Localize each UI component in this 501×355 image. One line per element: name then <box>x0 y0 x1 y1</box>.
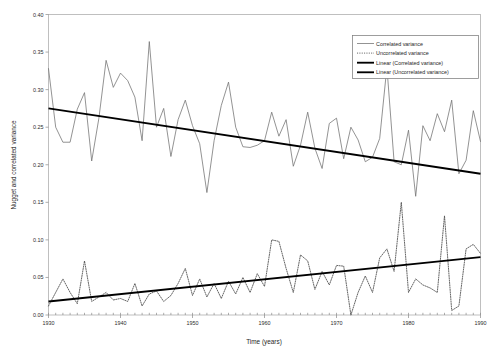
chart-legend: Correlated varianceUncorrelated variance… <box>353 36 479 79</box>
y-tick-label: 0.35 <box>33 49 44 55</box>
x-tick-label: 1990 <box>475 320 487 326</box>
x-tick-label: 1940 <box>115 320 127 326</box>
x-tick-label: 1930 <box>43 320 55 326</box>
x-tick-label: 1950 <box>187 320 199 326</box>
x-axis-title: Time (years) <box>246 338 282 346</box>
chart-canvas: 0.400.350.300.250.200.150.100.050.00 193… <box>0 0 501 355</box>
y-tick-label: 0.00 <box>33 312 44 318</box>
x-axis-minor-tick-marks <box>49 313 481 315</box>
y-tick-label: 0.40 <box>33 12 44 18</box>
legend-label: Uncorrelated variance <box>376 50 429 56</box>
x-tick-label: 1980 <box>403 320 415 326</box>
x-tick-label: 1970 <box>331 320 343 326</box>
y-tick-label: 0.20 <box>33 162 44 168</box>
legend-label: Linear (Uncorrelated variance) <box>376 69 449 75</box>
chart-figure: 0.400.350.300.250.200.150.100.050.00 193… <box>0 0 501 355</box>
y-tick-label: 0.15 <box>33 199 44 205</box>
y-tick-label: 0.25 <box>33 124 44 130</box>
legend-label: Linear (Correlated variance) <box>376 60 443 66</box>
y-tick-label: 0.05 <box>33 274 44 280</box>
y-tick-label: 0.30 <box>33 87 44 93</box>
y-axis-title: Nugget and correlated variance <box>10 120 18 210</box>
y-tick-label: 0.10 <box>33 237 44 243</box>
legend-label: Correlated variance <box>376 41 423 47</box>
x-tick-label: 1960 <box>259 320 271 326</box>
